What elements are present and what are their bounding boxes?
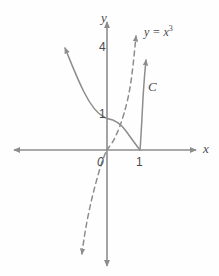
- cubic-function-label: y = x3: [144, 26, 173, 38]
- cubic-curve-upper: [107, 36, 136, 150]
- curve-c-right: [140, 60, 146, 150]
- y-axis-label: y: [101, 11, 107, 24]
- y-tick-label-1: 1: [99, 108, 106, 120]
- x-tick-label-1: 1: [136, 156, 143, 168]
- cubic-function-base: y = x: [144, 25, 169, 39]
- y-tick-label-4: 4: [99, 41, 106, 53]
- graph-figure: y x 4 1 0 1 C y = x3: [0, 0, 219, 276]
- curve-c-shoulder: [108, 119, 140, 150]
- curve-c-label: C: [148, 80, 157, 93]
- cubic-function-exponent: 3: [169, 24, 173, 33]
- plot-canvas: [0, 0, 219, 276]
- origin-label: 0: [97, 156, 104, 168]
- x-axis-label: x: [203, 142, 209, 155]
